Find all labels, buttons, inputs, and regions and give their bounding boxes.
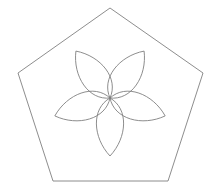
geometry-figure-canvas [0,0,220,196]
